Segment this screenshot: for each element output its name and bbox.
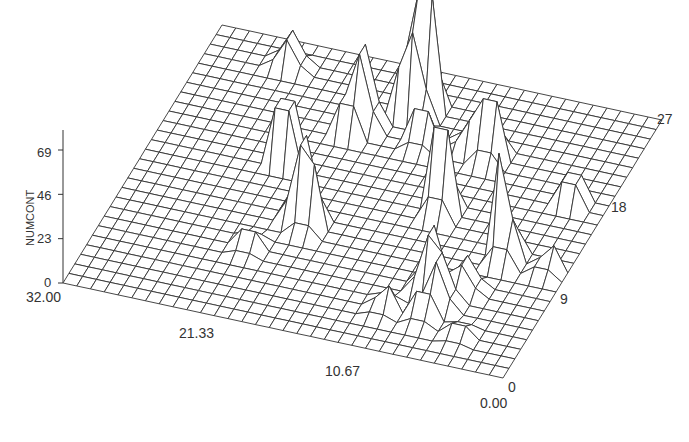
x-tick-0: 0 [508, 380, 516, 394]
z-tick-23: 23 [37, 232, 51, 245]
z-tick-46: 46 [37, 189, 51, 202]
x-tick-18: 18 [611, 200, 627, 214]
y-tick-0: 0.00 [480, 396, 507, 410]
y-tick-21: 21.33 [179, 326, 214, 340]
z-tick-0: 0 [44, 276, 51, 289]
y-tick-32: 32.00 [26, 290, 61, 304]
z-axis [58, 130, 63, 283]
z-tick-69: 69 [37, 146, 51, 159]
wireframe-mesh [63, 0, 662, 378]
y-tick-10: 10.67 [325, 364, 360, 378]
z-axis-title: NUMCONT [24, 190, 36, 246]
x-tick-27: 27 [657, 112, 673, 126]
x-tick-9: 9 [560, 292, 568, 306]
